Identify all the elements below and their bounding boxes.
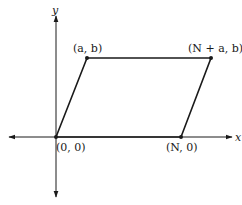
vertex-origin-dot <box>54 135 58 139</box>
x-axis-label: x <box>235 131 242 144</box>
vertex-n-plus-a-b-dot <box>209 56 213 60</box>
label-a-b: (a, b) <box>73 42 102 55</box>
label-origin: (0, 0) <box>56 141 86 154</box>
y-axis-label: y <box>51 4 59 17</box>
vertex-n-0-dot <box>179 135 183 139</box>
vertex-a-b-dot <box>85 56 89 60</box>
parallelogram <box>56 58 211 137</box>
label-n-plus-a-b: (N + a, b) <box>188 42 242 55</box>
label-n-0: (N, 0) <box>166 141 198 154</box>
parallelogram-diagram: y x (a, b) (N + a, b) (0, 0) (N, 0) <box>0 0 242 205</box>
